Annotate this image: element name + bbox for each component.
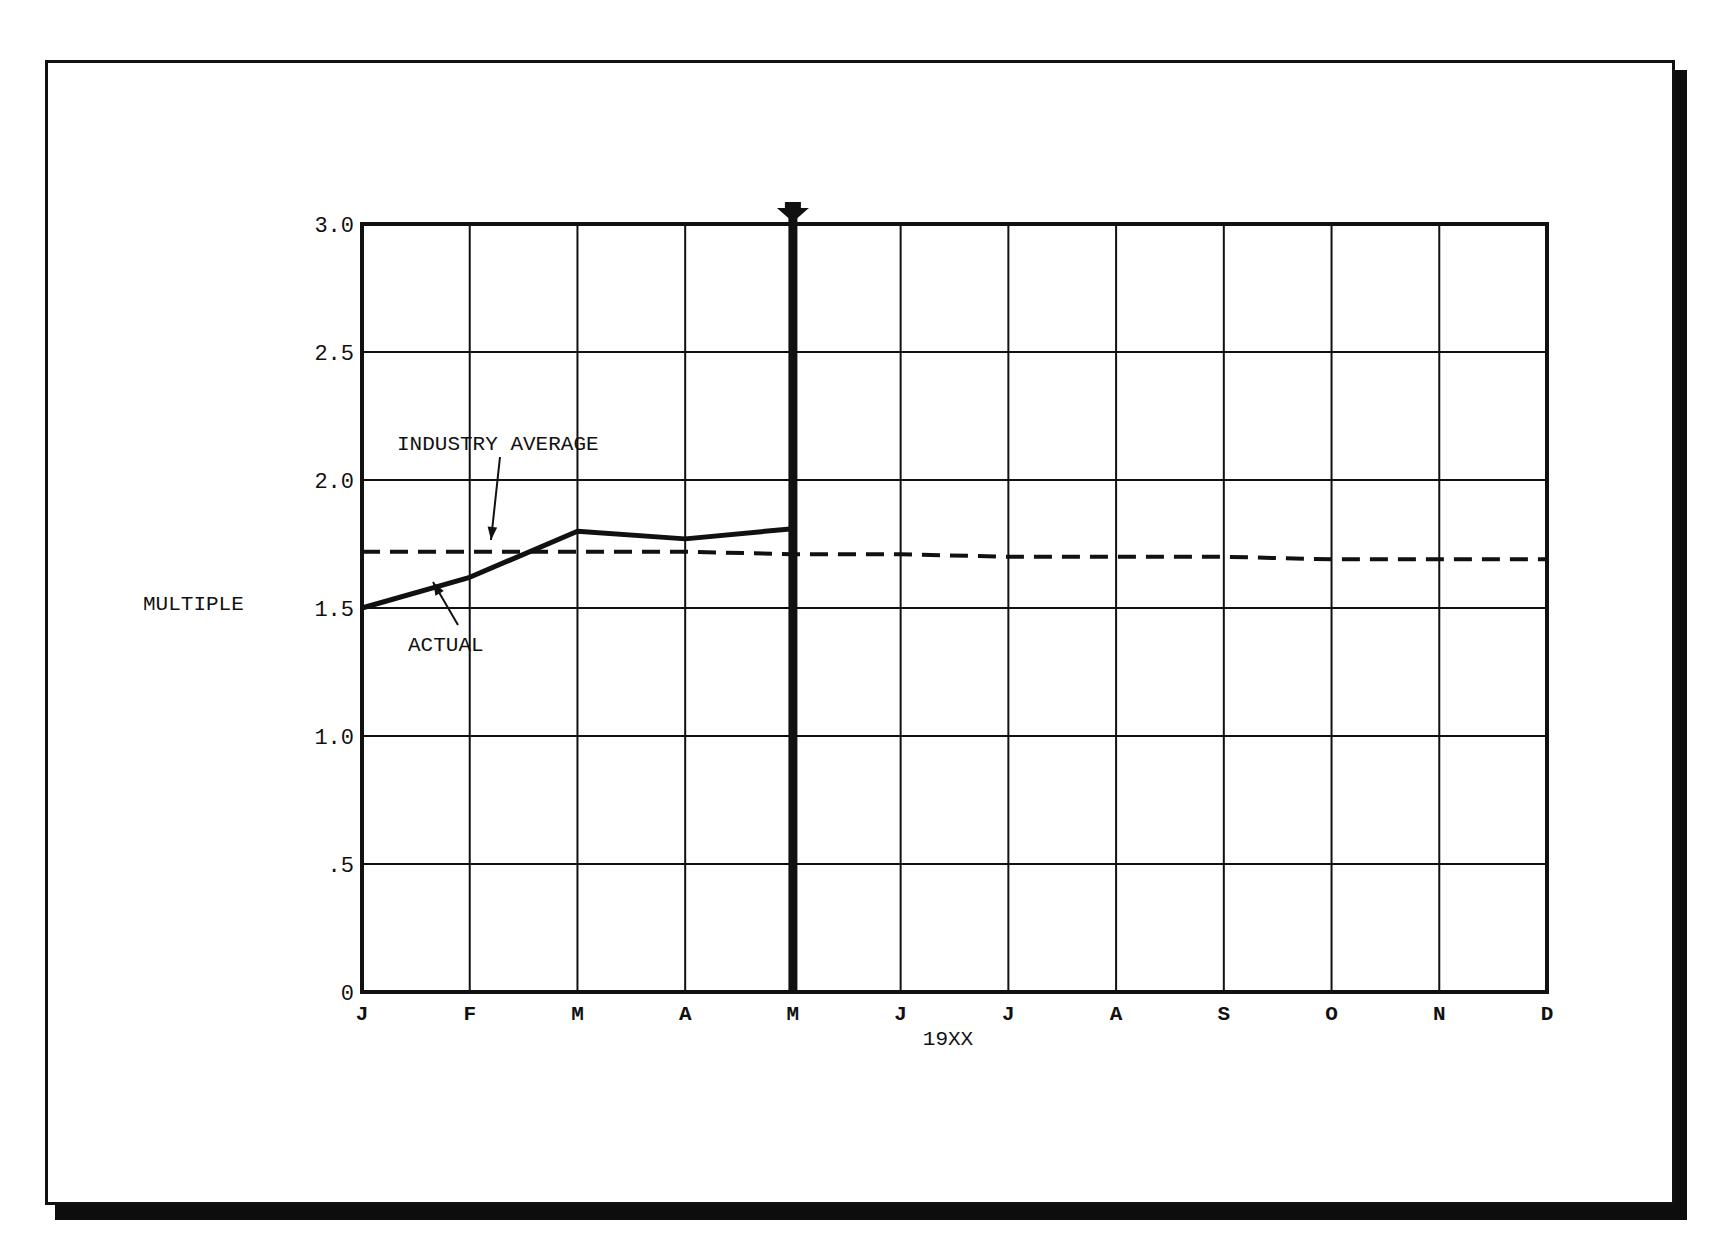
series-group — [362, 529, 1547, 608]
grid — [362, 224, 1547, 992]
annotation-industry-average: INDUSTRY AVERAGE — [397, 433, 599, 456]
x-tick-label: D — [1541, 1003, 1554, 1026]
x-tick-label: M — [571, 1003, 584, 1026]
y-tick-label: 1.0 — [314, 726, 354, 751]
y-tick-label: 3.0 — [314, 214, 354, 239]
x-tick-label: J — [1002, 1003, 1015, 1026]
marker-triangle-icon — [777, 208, 809, 222]
series-line-industry-average — [362, 552, 1547, 560]
y-tick-label: 0 — [341, 982, 354, 1007]
industry-average-arrow-head-icon — [488, 526, 498, 540]
marker-cap — [785, 202, 801, 210]
y-axis-label: MULTIPLE — [143, 593, 244, 616]
x-tick-label: A — [1110, 1003, 1123, 1026]
y-tick-label: .5 — [328, 854, 354, 879]
x-tick-label: N — [1433, 1003, 1446, 1026]
y-tick-label: 1.5 — [314, 598, 354, 623]
x-tick-label: F — [463, 1003, 476, 1026]
x-tick-label: J — [894, 1003, 907, 1026]
x-tick-label: S — [1218, 1003, 1231, 1026]
annotation-actual: ACTUAL — [408, 634, 484, 657]
x-tick-label: M — [787, 1003, 800, 1026]
y-tick-label: 2.0 — [314, 470, 354, 495]
x-tick-label: O — [1325, 1003, 1338, 1026]
x-tick-label: J — [356, 1003, 369, 1026]
y-tick-label: 2.5 — [314, 342, 354, 367]
axes: 0.51.01.52.02.53.0JFMAMJJASOND — [314, 202, 1553, 1026]
line-chart: 0.51.01.52.02.53.0JFMAMJJASOND MULTIPLE … — [0, 0, 1727, 1258]
x-tick-label: A — [679, 1003, 692, 1026]
x-axis-label: 19XX — [923, 1028, 974, 1051]
